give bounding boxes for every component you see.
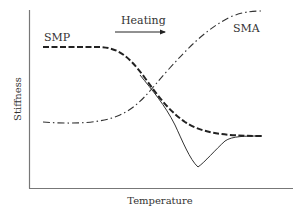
y-axis-label: Stiffness xyxy=(12,77,23,121)
smp-solid-curve xyxy=(140,75,262,167)
sma-curve xyxy=(43,11,262,123)
heating-label: Heating xyxy=(121,14,166,27)
stiffness-temperature-chart: Heating SMP SMA Temperature Stiffness xyxy=(0,0,305,213)
x-axis-label: Temperature xyxy=(127,195,193,206)
smp-label: SMP xyxy=(44,31,71,44)
sma-label: SMA xyxy=(233,22,261,35)
